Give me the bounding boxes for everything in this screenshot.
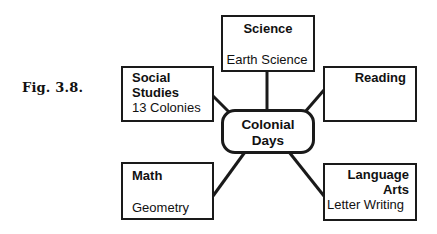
node-title: Math: [132, 168, 212, 183]
connector-language-arts: [289, 152, 324, 196]
node-social-studies: Social Studies 13 Colonies: [121, 66, 214, 122]
node-reading: Reading: [323, 66, 417, 122]
central-topic-line2: Days: [224, 133, 312, 149]
central-topic-line1: Colonial: [224, 117, 312, 133]
node-title: Reading: [325, 70, 406, 85]
node-subtitle: 13 Colonies: [132, 100, 212, 115]
node-math: Math Geometry: [121, 162, 214, 220]
node-language-arts: Language Arts Letter Writing: [323, 163, 417, 221]
node-title: Science: [223, 21, 313, 36]
connector-reading: [305, 90, 324, 112]
node-title-line2: Arts: [327, 182, 409, 197]
node-title-line1: Language: [327, 167, 409, 182]
central-topic: Colonial Days: [221, 109, 315, 154]
connector-math: [213, 152, 245, 196]
node-title-line2: Studies: [132, 85, 212, 100]
node-science: Science Earth Science: [221, 15, 315, 72]
node-subtitle: Geometry: [132, 200, 212, 215]
node-subtitle: Letter Writing: [327, 197, 409, 212]
node-title-line1: Social: [132, 70, 212, 85]
node-subtitle: Earth Science: [221, 52, 313, 67]
